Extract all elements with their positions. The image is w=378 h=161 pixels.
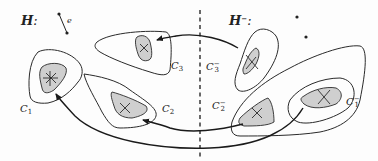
label-c2: C2 bbox=[162, 103, 174, 116]
arrow-c2minus-to-c2 bbox=[143, 120, 243, 131]
isolated-vertex bbox=[295, 15, 298, 18]
component-c3 bbox=[95, 31, 171, 74]
label-c3: C3 bbox=[171, 60, 183, 73]
edge-label: e bbox=[67, 16, 72, 25]
component-c2 bbox=[84, 74, 156, 128]
label-c1-minus: C−1 bbox=[346, 95, 359, 109]
isolated-vertex bbox=[304, 35, 307, 38]
component-c3-minus bbox=[235, 29, 278, 91]
arrow-c3minus-to-c3 bbox=[157, 35, 238, 48]
diagram-canvas bbox=[0, 0, 378, 161]
label-c3-minus: C−3 bbox=[206, 60, 219, 74]
left-panel-title: H: bbox=[21, 13, 38, 28]
right-panel-title: H−: bbox=[229, 13, 252, 28]
component-c1 bbox=[29, 50, 82, 104]
label-c1: C1 bbox=[20, 103, 32, 116]
label-c2-minus: C−2 bbox=[212, 99, 225, 113]
figure: H: e H−: C1 C2 C3 C−3 C−2 C−1 bbox=[0, 0, 378, 161]
component-c1-minus bbox=[288, 78, 354, 123]
